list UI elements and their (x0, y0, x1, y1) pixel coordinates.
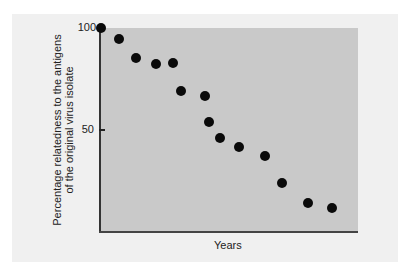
data-point (131, 53, 141, 63)
data-point (204, 117, 214, 127)
data-point (215, 133, 225, 143)
x-axis-line (99, 231, 358, 233)
y-tick-50 (99, 129, 105, 131)
y-axis-label: Percentage relatedness to the antigens o… (51, 15, 75, 245)
y-axis-label-line-2: of the original virus isolate (63, 15, 75, 245)
data-point (260, 151, 270, 161)
data-point (277, 178, 287, 188)
data-point (168, 58, 178, 68)
data-point (200, 91, 210, 101)
data-point (327, 203, 337, 213)
data-point (234, 142, 244, 152)
data-point (303, 198, 313, 208)
data-point (151, 59, 161, 69)
data-point (176, 86, 186, 96)
y-axis-label-line-1: Percentage relatedness to the antigens (51, 15, 63, 245)
x-axis-label: Years (214, 239, 242, 251)
data-point (114, 34, 124, 44)
data-point (96, 23, 106, 33)
y-tick-label-100: 100 (72, 21, 96, 33)
